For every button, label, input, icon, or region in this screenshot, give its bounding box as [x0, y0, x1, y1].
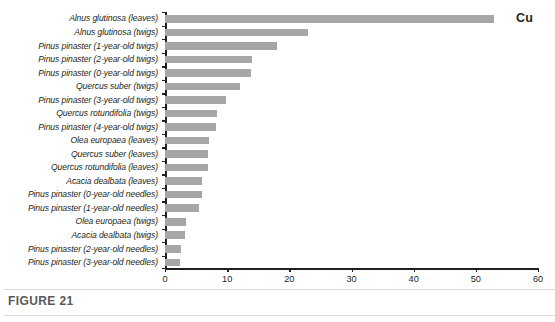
- category-tick: [162, 161, 165, 162]
- bar: [165, 96, 226, 104]
- bar-row: [165, 201, 538, 215]
- bar-row: [165, 107, 538, 121]
- category-label: Alnus glutinosa (leaves): [0, 12, 162, 26]
- bar-row: [165, 80, 538, 94]
- bar: [165, 56, 252, 64]
- category-label: Pinus pinaster (3-year-old needles): [0, 256, 162, 270]
- bar: [165, 191, 202, 199]
- category-label: Olea europaea (twigs): [0, 215, 162, 229]
- bar-row: [165, 174, 538, 188]
- category-label: Acacia dealbata (twigs): [0, 229, 162, 243]
- category-label: Pinus pinaster (1-year-old needles): [0, 201, 162, 215]
- value-tick: [476, 268, 477, 272]
- bar-row: [165, 12, 538, 26]
- series-label-cu: Cu: [516, 11, 533, 25]
- value-tick: [414, 268, 415, 272]
- category-label: Pinus pinaster (2-year-old twigs): [0, 53, 162, 67]
- bar: [165, 29, 308, 37]
- bar-row: [165, 26, 538, 40]
- caption-rule-bottom: [4, 315, 555, 316]
- value-tick: [165, 268, 166, 272]
- category-tick: [162, 39, 165, 40]
- bar-row: [165, 229, 538, 243]
- category-tick: [162, 242, 165, 243]
- bar: [165, 15, 494, 23]
- category-tick: [162, 215, 165, 216]
- bar: [165, 218, 186, 226]
- bar: [165, 123, 216, 131]
- category-label: Quercus suber (leaves): [0, 147, 162, 161]
- bar: [165, 231, 185, 239]
- value-tick: [538, 268, 539, 272]
- category-tick: [162, 12, 165, 13]
- category-tick: [162, 134, 165, 135]
- bar: [165, 69, 251, 77]
- bar: [165, 110, 217, 118]
- category-tick: [162, 53, 165, 54]
- category-label: Quercus rotundifolia (twigs): [0, 107, 162, 121]
- bar-row: [165, 120, 538, 134]
- bar: [165, 245, 181, 253]
- figure-caption-block: FIGURE 21: [0, 289, 555, 322]
- category-tick: [162, 26, 165, 27]
- bar-row: [165, 66, 538, 80]
- bar-row: [165, 161, 538, 175]
- value-tick-label: 0: [150, 274, 180, 284]
- bar-row: [165, 93, 538, 107]
- figure-caption: FIGURE 21: [8, 294, 74, 308]
- value-tick-label: 20: [274, 274, 304, 284]
- bar-row: [165, 39, 538, 53]
- value-tick-label: 60: [523, 274, 553, 284]
- value-tick-label: 50: [461, 274, 491, 284]
- plot-area: [165, 12, 538, 281]
- bar-row: [165, 188, 538, 202]
- category-tick: [162, 147, 165, 148]
- value-tick: [352, 268, 353, 272]
- value-tick: [289, 268, 290, 272]
- category-label: Pinus pinaster (0-year-old twigs): [0, 66, 162, 80]
- bar: [165, 204, 199, 212]
- bar: [165, 259, 180, 267]
- bar-row: [165, 134, 538, 148]
- category-tick: [162, 174, 165, 175]
- category-label: Quercus rotundifolia (leaves): [0, 161, 162, 175]
- category-tick: [162, 229, 165, 230]
- bar: [165, 164, 208, 172]
- category-label: Pinus pinaster (4-year-old twigs): [0, 120, 162, 134]
- category-tick: [162, 201, 165, 202]
- category-label: Alnus glutinosa (twigs): [0, 26, 162, 40]
- bar-row: [165, 215, 538, 229]
- figure-container: Alnus glutinosa (leaves)Alnus glutinosa …: [0, 0, 555, 322]
- category-tick: [162, 107, 165, 108]
- bar: [165, 42, 277, 50]
- caption-rule-top: [4, 289, 555, 290]
- value-tick-label: 10: [212, 274, 242, 284]
- category-tick: [162, 188, 165, 189]
- bar: [165, 137, 209, 145]
- category-tick: [162, 120, 165, 121]
- category-label: Quercus suber (twigs): [0, 80, 162, 94]
- bar: [165, 150, 208, 158]
- bar-chart: Alnus glutinosa (leaves)Alnus glutinosa …: [0, 0, 555, 290]
- category-label: Acacia dealbata (leaves): [0, 174, 162, 188]
- value-tick-label: 40: [399, 274, 429, 284]
- category-axis-labels: Alnus glutinosa (leaves)Alnus glutinosa …: [0, 12, 162, 269]
- value-tick-label: 30: [337, 274, 367, 284]
- bar: [165, 177, 202, 185]
- bar-series: [165, 12, 538, 269]
- bar: [165, 83, 240, 91]
- category-label: Pinus pinaster (3-year-old twigs): [0, 93, 162, 107]
- category-label: Pinus pinaster (1-year-old twigs): [0, 39, 162, 53]
- bar-row: [165, 147, 538, 161]
- category-tick: [162, 256, 165, 257]
- category-label: Pinus pinaster (2-year-old needles): [0, 242, 162, 256]
- value-tick: [227, 268, 228, 272]
- bar-row: [165, 242, 538, 256]
- category-tick: [162, 93, 165, 94]
- bar-row: [165, 53, 538, 67]
- category-tick: [162, 66, 165, 67]
- category-label: Pinus pinaster (0-year-old needles): [0, 188, 162, 202]
- category-tick: [162, 80, 165, 81]
- category-label: Olea europaea (leaves): [0, 134, 162, 148]
